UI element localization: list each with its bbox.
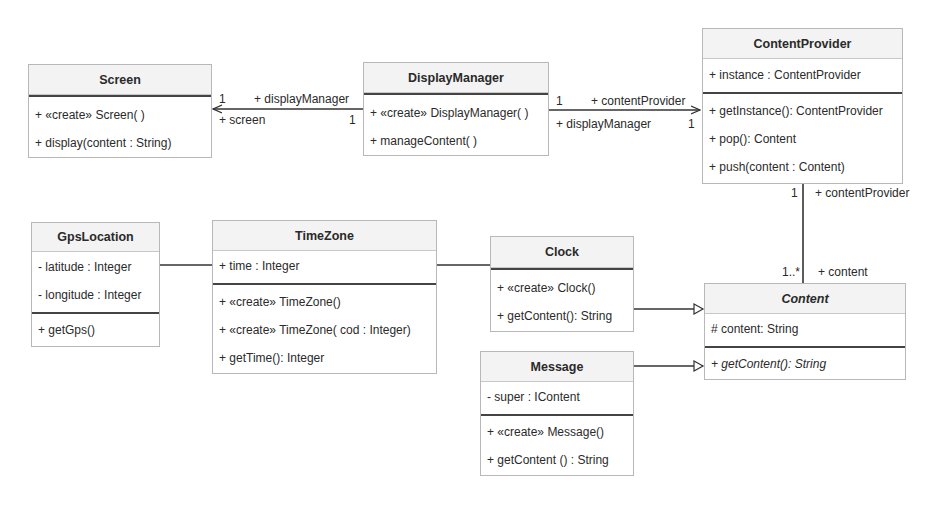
class-name: Content — [705, 284, 905, 314]
class-name: GpsLocation — [32, 223, 159, 252]
role-label: + displayManager — [254, 92, 349, 106]
role-label: + contentProvider — [591, 94, 685, 108]
operation: + getContent () : String — [481, 446, 633, 474]
operations-section: + getContent(): String — [705, 346, 905, 378]
operation: + getContent(): String — [491, 302, 633, 330]
operation: + pop(): Content — [703, 125, 902, 153]
operation: + push(content : Content) — [703, 153, 902, 181]
attribute: + time : Integer — [213, 252, 436, 280]
operations-section: + «create» Clock() + getContent(): Strin… — [491, 268, 633, 330]
class-name: ContentProvider — [703, 29, 902, 59]
multiplicity-label: 1 — [349, 113, 356, 127]
attribute: - latitude : Integer — [32, 253, 159, 281]
role-label: + screen — [219, 113, 265, 127]
operation: + «create» Message() — [481, 418, 633, 446]
operations-section: + getGps() — [32, 312, 159, 344]
operation: + «create» Clock() — [491, 274, 633, 302]
role-label: + displayManager — [556, 117, 651, 131]
class-name: Message — [481, 352, 633, 382]
attributes-section: - latitude : Integer - longitude : Integ… — [32, 252, 159, 312]
operations-section: + «create» TimeZone() + «create» TimeZon… — [213, 283, 436, 372]
class-name: DisplayManager — [364, 63, 548, 93]
operations-section: + «create» Screen( ) + display(content :… — [29, 95, 211, 157]
operations-section: + «create» DisplayManager( ) + manageCon… — [364, 93, 548, 155]
operation: + getInstance(): ContentProvider — [703, 97, 902, 125]
multiplicity-label: 1 — [688, 117, 695, 131]
operations-section: + getInstance(): ContentProvider + pop()… — [703, 92, 902, 181]
role-label: + contentProvider — [815, 186, 909, 200]
class-display-manager[interactable]: DisplayManager + «create» DisplayManager… — [363, 62, 549, 156]
multiplicity-label: 1 — [556, 94, 563, 108]
multiplicity-label: 1 — [219, 92, 226, 106]
multiplicity-label: 1 — [791, 186, 798, 200]
multiplicity-label: 1..* — [782, 265, 800, 279]
operation: + «create» Screen( ) — [29, 101, 211, 129]
attributes-section: # content: String — [705, 314, 905, 346]
operation: + manageContent( ) — [364, 127, 548, 155]
class-gps-location[interactable]: GpsLocation - latitude : Integer - longi… — [31, 222, 160, 347]
role-label: + content — [818, 265, 868, 279]
attribute: # content: String — [705, 315, 905, 343]
attribute: - super : IContent — [481, 383, 633, 411]
attributes-section: + time : Integer — [213, 251, 436, 283]
class-name: Screen — [29, 65, 211, 95]
operations-section: + «create» Message() + getContent () : S… — [481, 414, 633, 474]
operation: + «create» TimeZone( cod : Integer) — [213, 316, 436, 344]
class-name: Clock — [491, 237, 633, 268]
class-screen[interactable]: Screen + «create» Screen( ) + display(co… — [28, 64, 212, 158]
class-time-zone[interactable]: TimeZone + time : Integer + «create» Tim… — [212, 220, 437, 374]
attribute: + instance : ContentProvider — [703, 61, 902, 89]
operation: + getTime(): Integer — [213, 344, 436, 372]
attribute: - longitude : Integer — [32, 281, 159, 309]
class-message[interactable]: Message - super : IContent + «create» Me… — [480, 351, 634, 476]
class-content-provider[interactable]: ContentProvider + instance : ContentProv… — [702, 28, 903, 184]
operation: + getContent(): String — [705, 350, 905, 378]
operation: + «create» TimeZone() — [213, 288, 436, 316]
operation: + «create» DisplayManager( ) — [364, 99, 548, 127]
class-content[interactable]: Content # content: String + getContent()… — [704, 283, 906, 380]
attributes-section: - super : IContent — [481, 382, 633, 414]
class-clock[interactable]: Clock + «create» Clock() + getContent():… — [490, 236, 634, 332]
operation: + display(content : String) — [29, 129, 211, 157]
attributes-section: + instance : ContentProvider — [703, 59, 902, 92]
operation: + getGps() — [32, 316, 159, 344]
class-name: TimeZone — [213, 221, 436, 251]
